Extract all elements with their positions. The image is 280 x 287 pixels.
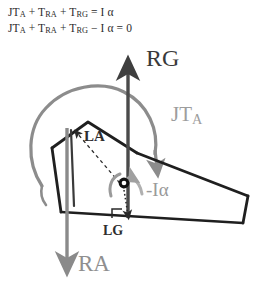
label-jta-main: JT [171,102,192,126]
label-ra: RA [78,252,110,275]
label-jta-subscript: A [192,111,202,127]
label-jta: JTA [171,104,202,126]
lg-dimension-line [112,190,128,218]
jta-moment-arc [31,86,157,205]
free-body-diagram [0,0,280,287]
label-inertial-moment: -Iα [146,180,169,199]
label-rg: RG [146,46,179,70]
label-lg: LG [103,224,123,238]
diagram-canvas: JTA + TRA + TRG = I α JTA + TRA + TRG − … [0,0,280,287]
label-la: LA [84,129,105,144]
center-of-gravity-marker [119,178,130,189]
